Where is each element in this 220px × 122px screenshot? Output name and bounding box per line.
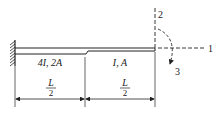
dimension-1-fraction: L 2	[46, 77, 56, 98]
svg-text:2: 2	[123, 88, 128, 98]
segment-1-label: 4I, 2A	[38, 57, 63, 68]
cantilever-beam-diagram: 4I, 2A I, A 2 1 3 L 2 L 2	[0, 0, 220, 122]
beam	[15, 48, 155, 54]
axis-2-label: 2	[158, 9, 163, 20]
segment-2-label: I, A	[112, 57, 128, 68]
axis-1-label: 1	[208, 43, 213, 54]
svg-text:2: 2	[49, 88, 54, 98]
fixed-support	[10, 40, 15, 66]
dimension-2-fraction: L 2	[120, 77, 130, 98]
axis-3-arrow	[158, 29, 172, 64]
svg-text:L: L	[47, 77, 54, 88]
svg-text:L: L	[121, 77, 128, 88]
axis-3-label: 3	[175, 66, 180, 77]
